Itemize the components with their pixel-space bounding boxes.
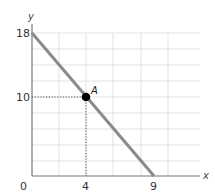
data-line — [32, 33, 154, 176]
point-a-label: A — [90, 85, 98, 96]
grid — [32, 33, 200, 176]
x-axis-label: x — [202, 170, 209, 181]
point-a-marker — [82, 93, 91, 102]
y-axis-label: y — [27, 11, 35, 22]
x-tick-9: 9 — [150, 180, 157, 193]
x-tick-4: 4 — [82, 180, 89, 193]
y-tick-18: 18 — [16, 27, 30, 40]
chart: A y x 18 10 0 4 9 — [0, 0, 215, 195]
origin-label: 0 — [20, 180, 27, 193]
y-tick-10: 10 — [16, 91, 30, 104]
